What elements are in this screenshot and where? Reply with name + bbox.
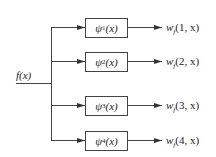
output-args: (2, x) xyxy=(175,55,199,67)
input-label: f(x) xyxy=(16,69,31,81)
filter-box-4: ψ4(x) xyxy=(85,131,128,151)
filter-box-3: ψ3(x) xyxy=(85,96,128,116)
filter-box-1: ψ1(x) xyxy=(85,18,128,38)
filter-box-2: ψ2(x) xyxy=(85,52,128,72)
filter-arg: (x) xyxy=(106,56,118,68)
output-label-2: wf(2, x) xyxy=(166,55,199,72)
filter-symbol: ψ xyxy=(95,100,102,112)
output-args: (3, x) xyxy=(175,99,199,111)
output-label-3: wf(3, x) xyxy=(166,99,199,116)
output-label-1: wf(1, x) xyxy=(166,21,199,38)
output-args: (4, x) xyxy=(175,134,199,146)
output-label-4: wf(4, x) xyxy=(166,134,199,151)
filter-symbol: ψ xyxy=(95,135,102,147)
filter-arg: (x) xyxy=(106,135,118,147)
filter-symbol: ψ xyxy=(95,56,102,68)
filter-symbol: ψ xyxy=(95,22,102,34)
filter-arg: (x) xyxy=(106,100,118,112)
output-args: (1, x) xyxy=(175,21,199,33)
filter-arg: (x) xyxy=(106,22,118,34)
